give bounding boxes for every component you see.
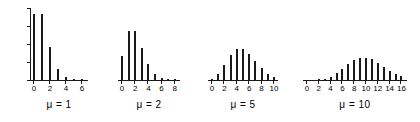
bar [236,49,238,81]
bar [377,63,379,80]
bar [365,58,367,81]
bar [33,14,35,80]
bar-group [208,8,278,80]
bar [147,64,149,80]
x-tick-label: 0 [26,84,42,94]
bar [347,64,349,80]
bar [371,59,373,80]
poisson-pmf-figure: 0.00.10.20.30.4 0246μ = 102468μ = 202468… [0,0,420,122]
x-tick-label: 4 [58,84,74,94]
poisson-panel-mu-1: 0246μ = 1 [30,0,88,122]
panel-annotation-mu: μ = 10 [303,99,407,111]
plot-area [30,8,88,80]
bar [121,56,123,80]
x-tick-label: 8 [167,84,183,94]
bar-group [118,8,180,80]
poisson-panel-mu-5: 0246810μ = 5 [208,0,278,122]
panel-annotation-mu: μ = 2 [118,99,180,111]
x-axis-line [118,80,180,81]
bar [248,54,250,80]
bar [261,68,263,80]
bar [336,73,338,80]
poisson-panel-mu-2: 02468μ = 2 [118,0,180,122]
bar [383,67,385,80]
bar [141,48,143,80]
bar [128,31,130,80]
bar [242,49,244,81]
bar [49,47,51,80]
panel-annotation-mu: μ = 5 [208,99,278,111]
bar [57,69,59,80]
bar [254,61,256,80]
plot-area [208,8,278,80]
x-tick-label: 10 [266,84,282,94]
x-tick-label: 6 [74,84,90,94]
bar [134,31,136,80]
y-axis: 0.00.10.20.30.4 [0,0,30,122]
bar [223,65,225,80]
plot-area [118,8,180,80]
bar [230,55,232,80]
poisson-panel-mu-10: 0246810121416μ = 10 [303,0,407,122]
bar-group [30,8,88,80]
x-tick-label: 2 [42,84,58,94]
bar [389,71,391,80]
x-axis-line [30,80,88,81]
bar [353,60,355,80]
plot-area [303,8,407,80]
x-tick-label: 16 [393,84,409,94]
panel-annotation-mu: μ = 1 [30,99,88,111]
x-axis-line [208,80,278,81]
bar-group [303,8,407,80]
bar [341,69,343,80]
bar [41,14,43,80]
bar [359,58,361,81]
